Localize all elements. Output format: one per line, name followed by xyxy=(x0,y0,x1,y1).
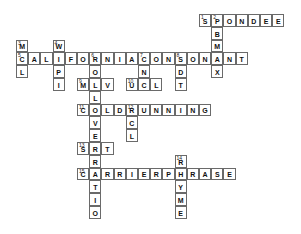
cell-letter: S xyxy=(176,55,186,64)
crossword-cell[interactable]: N xyxy=(138,65,150,78)
crossword-cell[interactable]: T xyxy=(175,78,187,91)
crossword-cell[interactable]: L xyxy=(126,129,138,142)
crossword-cell[interactable]: E xyxy=(272,14,284,27)
cell-letter: I xyxy=(54,55,64,64)
crossword-cell[interactable]: 12R xyxy=(126,104,138,117)
crossword-cell[interactable]: 13S xyxy=(77,142,89,155)
crossword-cell[interactable]: E xyxy=(223,168,235,181)
crossword-cell[interactable]: U xyxy=(138,104,150,117)
crossword-cell[interactable]: G xyxy=(199,104,211,117)
crossword-cell[interactable]: 1S xyxy=(199,14,211,27)
crossword-cell[interactable]: P xyxy=(162,168,174,181)
crossword-cell[interactable]: A xyxy=(199,168,211,181)
crossword-cell[interactable]: H xyxy=(175,168,187,181)
crossword-cell[interactable]: O xyxy=(223,14,235,27)
crossword-cell[interactable]: O xyxy=(77,52,89,65)
crossword-cell[interactable]: E xyxy=(260,14,272,27)
cell-letter: M xyxy=(78,81,88,90)
crossword-cell[interactable]: I xyxy=(53,78,65,91)
crossword-cell[interactable]: I xyxy=(126,168,138,181)
crossword-cell[interactable]: R xyxy=(187,168,199,181)
crossword-cell[interactable]: R xyxy=(89,142,101,155)
crossword-cell[interactable]: P xyxy=(53,65,65,78)
crossword-cell[interactable]: N xyxy=(236,14,248,27)
crossword-cell[interactable]: O xyxy=(89,104,101,117)
crossword-cell[interactable]: 14R xyxy=(175,155,187,168)
crossword-cell[interactable]: N xyxy=(199,52,211,65)
cell-letter: O xyxy=(90,106,100,115)
crossword-cell[interactable]: A xyxy=(211,52,223,65)
cell-letter: A xyxy=(127,55,137,64)
cell-letter: L xyxy=(90,81,100,90)
crossword-cell[interactable]: C xyxy=(126,116,138,129)
crossword-cell[interactable]: 11C xyxy=(77,104,89,117)
crossword-cell[interactable]: D xyxy=(114,104,126,117)
crossword-cell[interactable]: 4W xyxy=(53,40,65,53)
crossword-cell[interactable]: A xyxy=(89,168,101,181)
crossword-cell[interactable]: L xyxy=(89,78,101,91)
crossword-cell[interactable]: T xyxy=(101,142,113,155)
cell-letter: M xyxy=(212,42,222,51)
crossword-cell[interactable]: 15C xyxy=(77,168,89,181)
crossword-cell[interactable]: O xyxy=(89,206,101,219)
crossword-cell[interactable]: 6R xyxy=(89,52,101,65)
crossword-cell[interactable]: S xyxy=(211,168,223,181)
cell-letter: C xyxy=(17,55,27,64)
cell-letter: R xyxy=(102,170,112,179)
crossword-cell[interactable]: A xyxy=(28,52,40,65)
crossword-cell[interactable]: V xyxy=(101,78,113,91)
crossword-cell[interactable]: L xyxy=(40,52,52,65)
crossword-cell[interactable]: T xyxy=(236,52,248,65)
crossword-cell[interactable]: R xyxy=(101,168,113,181)
crossword-cell[interactable]: N xyxy=(150,104,162,117)
crossword-cell[interactable]: D xyxy=(248,14,260,27)
cell-letter: E xyxy=(90,132,100,141)
crossword-cell[interactable]: D xyxy=(175,65,187,78)
crossword-cell[interactable]: L xyxy=(101,104,113,117)
crossword-cell[interactable]: N xyxy=(101,52,113,65)
crossword-cell[interactable]: I xyxy=(89,193,101,206)
crossword-cell[interactable]: A xyxy=(126,52,138,65)
crossword-cell[interactable]: N xyxy=(187,104,199,117)
crossword-cell[interactable]: 9M xyxy=(77,78,89,91)
crossword-cell[interactable]: B xyxy=(211,27,223,40)
crossword-cell[interactable]: L xyxy=(150,78,162,91)
cell-letter: O xyxy=(90,209,100,218)
crossword-cell[interactable]: N xyxy=(223,52,235,65)
crossword-cell[interactable]: O xyxy=(150,52,162,65)
crossword-cell[interactable]: O xyxy=(89,65,101,78)
cell-letter: N xyxy=(163,106,173,115)
crossword-cell[interactable]: Y xyxy=(175,180,187,193)
crossword-cell[interactable]: R xyxy=(150,168,162,181)
crossword-cell[interactable]: 10U xyxy=(126,78,138,91)
crossword-cell[interactable]: 7C xyxy=(138,52,150,65)
crossword-cell[interactable]: O xyxy=(187,52,199,65)
crossword-cell[interactable]: 2P xyxy=(211,14,223,27)
cell-letter: F xyxy=(66,55,76,64)
cell-letter: N xyxy=(200,55,210,64)
cell-letter: M xyxy=(176,196,186,205)
crossword-cell[interactable]: F xyxy=(65,52,77,65)
crossword-cell[interactable]: 8S xyxy=(175,52,187,65)
crossword-cell[interactable]: N xyxy=(162,104,174,117)
crossword-cell[interactable]: V xyxy=(89,116,101,129)
crossword-cell[interactable]: R xyxy=(114,168,126,181)
crossword-cell[interactable]: N xyxy=(162,52,174,65)
crossword-cell[interactable]: C xyxy=(138,78,150,91)
crossword-cell[interactable]: T xyxy=(89,180,101,193)
crossword-cell[interactable]: I xyxy=(175,104,187,117)
crossword-cell[interactable]: L xyxy=(89,91,101,104)
crossword-cell[interactable]: 3M xyxy=(16,40,28,53)
crossword-cell[interactable]: L xyxy=(16,65,28,78)
crossword-cell[interactable]: E xyxy=(138,168,150,181)
crossword-cell[interactable]: M xyxy=(211,40,223,53)
crossword-cell[interactable]: I xyxy=(114,52,126,65)
cell-letter: L xyxy=(151,81,161,90)
crossword-cell[interactable]: X xyxy=(211,65,223,78)
crossword-cell[interactable]: I xyxy=(53,52,65,65)
crossword-cell[interactable]: 5C xyxy=(16,52,28,65)
crossword-cell[interactable]: E xyxy=(175,206,187,219)
crossword-cell[interactable]: E xyxy=(89,129,101,142)
crossword-cell[interactable]: M xyxy=(175,193,187,206)
crossword-cell[interactable]: R xyxy=(89,155,101,168)
